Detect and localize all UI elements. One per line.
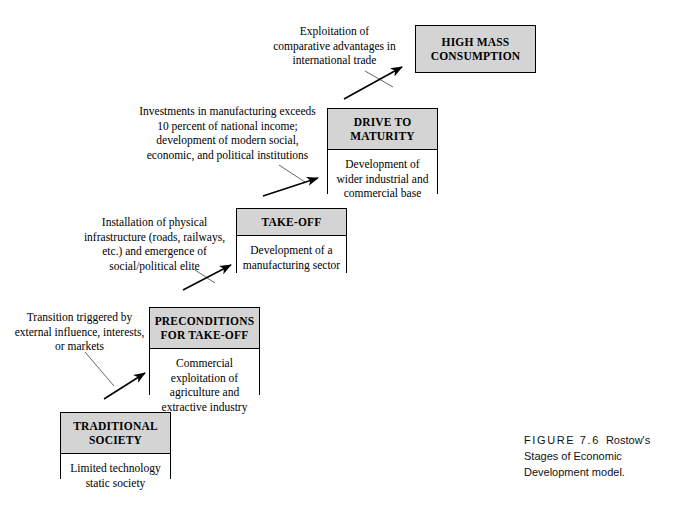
stage-header-high-mass-consumption: HIGH MASS CONSUMPTION xyxy=(416,26,535,72)
stage-header-drive-to-maturity: DRIVE TO MATURITY xyxy=(328,109,437,150)
stage-header-line1: TAKE-OFF xyxy=(240,215,343,229)
stage-box-high-mass-consumption[interactable]: HIGH MASS CONSUMPTION xyxy=(415,25,536,73)
stage-box-preconditions-for-take-off[interactable]: PRECONDITIONS FOR TAKE-OFF Commercial ex… xyxy=(149,307,260,395)
stage-box-take-off[interactable]: TAKE-OFF Development of a manufacturing … xyxy=(236,208,347,273)
arrow-to-drive-to-maturity xyxy=(263,165,318,196)
stage-box-traditional-society[interactable]: TRADITIONAL SOCIETY Limited technology s… xyxy=(60,412,171,479)
figure-canvas: HIGH MASS CONSUMPTION DRIVE TO MATURITY … xyxy=(0,0,680,522)
stage-header-preconditions: PRECONDITIONS FOR TAKE-OFF xyxy=(150,308,259,349)
stage-body-traditional-society: Limited technology static society xyxy=(61,454,170,496)
stage-header-line1: DRIVE TO xyxy=(331,115,434,129)
annotation-preconditions: Transition triggered by external influen… xyxy=(9,310,150,354)
stage-header-line2: SOCIETY xyxy=(64,433,167,447)
annotation-drive-to-maturity: Investments in manufacturing exceeds 10 … xyxy=(139,104,316,162)
stage-box-drive-to-maturity[interactable]: DRIVE TO MATURITY Development of wider i… xyxy=(327,108,438,194)
stage-header-line2: MATURITY xyxy=(331,129,434,143)
stage-header-line1: PRECONDITIONS xyxy=(153,314,256,328)
figure-caption: FIGURE 7.6Rostow's Stages of Economic De… xyxy=(524,432,674,480)
stage-header-line1: TRADITIONAL xyxy=(64,419,167,433)
stage-body-preconditions: Commercial exploitation of agriculture a… xyxy=(150,349,259,420)
stage-header-take-off: TAKE-OFF xyxy=(237,209,346,236)
stage-header-line2: FOR TAKE-OFF xyxy=(153,328,256,342)
annotation-take-off: Installation of physical infrastructure … xyxy=(82,215,227,273)
figure-title-line1: Rostow's xyxy=(606,434,650,446)
figure-label: FIGURE 7.6 xyxy=(524,434,600,446)
stage-header-traditional-society: TRADITIONAL SOCIETY xyxy=(61,413,170,454)
arrow-to-preconditions xyxy=(85,352,145,399)
stage-body-drive-to-maturity: Development of wider industrial and comm… xyxy=(328,150,437,207)
stage-header-line2: CONSUMPTION xyxy=(431,49,521,63)
figure-title-line3: Development model. xyxy=(524,466,625,478)
figure-title-line2: Stages of Economic xyxy=(524,450,622,462)
annotation-high-mass-consumption: Exploitation of comparative advantages i… xyxy=(272,24,397,68)
stage-header-line1: HIGH MASS xyxy=(431,35,521,49)
arrow-to-high-mass-consumption xyxy=(344,67,402,99)
stage-body-take-off: Development of a manufacturing sector xyxy=(237,236,346,278)
